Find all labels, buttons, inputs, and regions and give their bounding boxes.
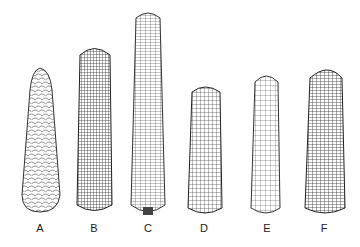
ear-c <box>131 13 165 212</box>
label-a: A <box>30 222 50 234</box>
ears-drawing <box>0 0 360 247</box>
ear-f <box>305 70 345 213</box>
label-b: B <box>84 222 104 234</box>
label-f: F <box>314 222 334 234</box>
ear-a <box>22 68 60 212</box>
label-e: E <box>257 222 277 234</box>
corn-ears-figure: A B C D E F <box>0 0 360 247</box>
ear-b <box>77 49 112 211</box>
label-d: D <box>194 222 214 234</box>
ear-e <box>251 76 280 213</box>
ear-d <box>188 87 222 213</box>
label-c: C <box>138 222 158 234</box>
